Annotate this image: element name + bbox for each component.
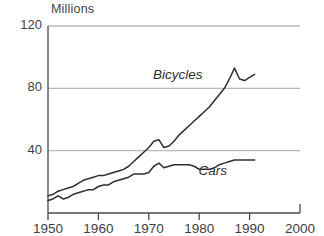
gridlines	[48, 26, 300, 151]
y-axis-tick-label: 40	[2, 142, 42, 157]
x-axis-tick-label: 1980	[176, 221, 222, 236]
y-axis-tick-label: 80	[2, 79, 42, 94]
series-label-bicycles: Bicycles	[153, 67, 203, 82]
x-axis-tick-label: 2000	[277, 221, 323, 236]
series-label-cars: Cars	[198, 163, 227, 178]
x-axis-tick-marks	[48, 213, 250, 220]
x-axis-tick-label: 1950	[25, 221, 71, 236]
y-axis-unit-label: Millions	[51, 2, 94, 16]
x-axis-tick-label: 1960	[75, 221, 121, 236]
chart-container: Millions 4080120 19501960197019801990200…	[0, 0, 324, 236]
line-chart-plot	[0, 0, 324, 236]
y-axis-tick-label: 120	[2, 17, 42, 32]
x-axis-tick-label: 1970	[126, 221, 172, 236]
axis-lines	[48, 26, 300, 213]
x-axis-tick-label: 1990	[227, 221, 273, 236]
